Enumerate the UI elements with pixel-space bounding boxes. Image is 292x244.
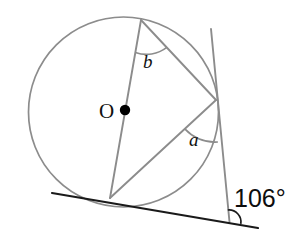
angle-label-a: a [189, 130, 199, 149]
geometry-figure: O b a 106° [0, 0, 292, 244]
transversal-line [211, 29, 230, 222]
angle-value-label-106: 106° [234, 186, 286, 211]
angle-label-b: b [143, 52, 153, 71]
center-dot [120, 105, 130, 115]
center-label-o: O [99, 101, 114, 122]
